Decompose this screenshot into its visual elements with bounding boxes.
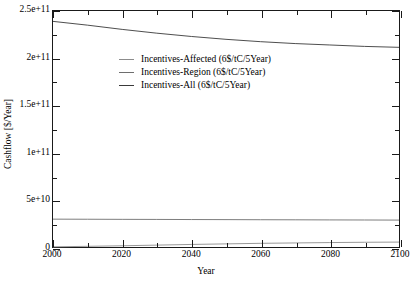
x-axis-tick xyxy=(53,240,54,247)
y-axis-title: Cashflow [$/Year] xyxy=(3,82,13,186)
x-axis-tick-label: 2060 xyxy=(251,250,270,260)
legend-label: Incentives-All (6$/tC/5Year) xyxy=(141,81,250,91)
legend-label: Incentives-Affected (6$/tC/5Year) xyxy=(141,55,271,65)
x-axis-minor-tick xyxy=(88,11,89,15)
y-axis-minor-tick xyxy=(395,225,399,226)
y-axis-minor-tick xyxy=(395,82,399,83)
x-axis-tick xyxy=(123,11,124,18)
x-axis-tick xyxy=(331,240,332,247)
x-axis-title: Year xyxy=(0,266,412,276)
chart-legend: Incentives-Affected (6$/tC/5Year)Incenti… xyxy=(119,53,271,92)
x-axis-minor-tick xyxy=(227,243,228,247)
x-axis-minor-tick xyxy=(297,243,298,247)
x-axis-minor-tick xyxy=(227,11,228,15)
y-axis-tick-label: 1e+11 xyxy=(27,148,50,158)
series-line xyxy=(53,242,399,247)
legend-line-icon xyxy=(119,59,134,60)
y-axis-minor-tick xyxy=(395,130,399,131)
x-axis-tick-label: 2080 xyxy=(321,250,340,260)
x-axis-tick xyxy=(401,240,402,247)
y-axis-minor-tick xyxy=(53,130,57,131)
series-lines xyxy=(53,11,399,247)
x-axis-tick xyxy=(123,240,124,247)
x-axis-tick-label: 2020 xyxy=(112,250,131,260)
x-axis-tick-label: 2000 xyxy=(43,250,62,260)
plot-area: Incentives-Affected (6$/tC/5Year)Incenti… xyxy=(52,10,400,248)
x-axis-tick-labels: 200020202040206020802100 xyxy=(52,250,400,264)
y-axis-tick xyxy=(392,154,399,155)
x-axis-tick xyxy=(53,11,54,18)
legend-line-icon xyxy=(119,85,134,86)
x-axis-tick xyxy=(192,11,193,18)
y-axis-tick-label: 1.5e+11 xyxy=(19,100,50,110)
x-axis-tick xyxy=(401,11,402,18)
y-axis-tick xyxy=(392,11,399,12)
x-axis-minor-tick xyxy=(157,11,158,15)
y-axis-tick-label: 5e+10 xyxy=(26,196,50,206)
y-axis-tick-label: 2.5e+11 xyxy=(19,5,50,15)
y-axis-tick xyxy=(53,11,60,12)
x-axis-minor-tick xyxy=(366,243,367,247)
y-axis-tick xyxy=(53,106,60,107)
x-axis-tick xyxy=(331,11,332,18)
y-axis-tick xyxy=(392,106,399,107)
x-axis-minor-tick xyxy=(297,11,298,15)
x-axis-tick xyxy=(262,11,263,18)
y-axis-tick xyxy=(53,59,60,60)
x-axis-tick xyxy=(262,240,263,247)
y-axis-minor-tick xyxy=(395,35,399,36)
legend-item[interactable]: Incentives-Region (6$/tC/5Year) xyxy=(119,66,271,79)
x-axis-tick-label: 2100 xyxy=(391,250,410,260)
y-axis-minor-tick xyxy=(53,35,57,36)
y-axis-minor-tick xyxy=(53,178,57,179)
y-axis-tick xyxy=(53,201,60,202)
legend-line-icon xyxy=(119,72,134,73)
x-axis-tick-label: 2040 xyxy=(182,250,201,260)
series-line xyxy=(53,219,399,220)
x-axis-minor-tick xyxy=(88,243,89,247)
y-axis-tick xyxy=(53,154,60,155)
y-axis-tick xyxy=(392,59,399,60)
legend-item[interactable]: Incentives-Affected (6$/tC/5Year) xyxy=(119,53,271,66)
y-axis-minor-tick xyxy=(395,178,399,179)
y-axis-minor-tick xyxy=(53,82,57,83)
x-axis-minor-tick xyxy=(366,11,367,15)
x-axis-minor-tick xyxy=(157,243,158,247)
y-axis-tick-label: 2e+11 xyxy=(27,53,50,63)
legend-item[interactable]: Incentives-All (6$/tC/5Year) xyxy=(119,79,271,92)
series-line xyxy=(53,21,399,47)
y-axis-minor-tick xyxy=(53,225,57,226)
x-axis-tick xyxy=(192,240,193,247)
chart-figure: 05e+101e+111.5e+112e+112.5e+11 Incentive… xyxy=(0,0,412,286)
y-axis-tick xyxy=(392,201,399,202)
legend-label: Incentives-Region (6$/tC/5Year) xyxy=(141,68,265,78)
